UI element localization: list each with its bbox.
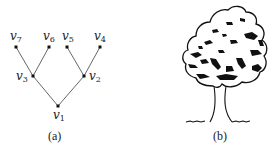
tree-trunk bbox=[210, 86, 232, 122]
edge-v1-v3 bbox=[33, 76, 58, 106]
caption-a: (a) bbox=[48, 129, 61, 143]
label-v3: v3 bbox=[16, 69, 28, 84]
label-v2: v2 bbox=[89, 69, 101, 84]
edge-v1-v2 bbox=[58, 76, 84, 106]
label-v7: v7 bbox=[10, 29, 22, 44]
label-v4: v4 bbox=[94, 29, 106, 44]
panel-a-tree-graph: v7 v6 v5 v4 v3 v2 v1 (a) bbox=[10, 29, 106, 143]
figure: v7 v6 v5 v4 v3 v2 v1 (a) bbox=[0, 0, 278, 153]
edge-v2-v5 bbox=[67, 47, 84, 76]
grass bbox=[186, 121, 250, 122]
label-v6: v6 bbox=[43, 29, 55, 44]
label-v1: v1 bbox=[53, 108, 65, 123]
panel-b-tree-illustration: (b) bbox=[183, 6, 267, 143]
edges bbox=[16, 47, 100, 106]
node-v7 bbox=[15, 46, 18, 49]
edge-v3-v6 bbox=[33, 47, 49, 76]
node-v5 bbox=[66, 46, 69, 49]
caption-b: (b) bbox=[213, 129, 227, 143]
node-v6 bbox=[48, 46, 51, 49]
tree-icon bbox=[183, 6, 267, 122]
node-v4 bbox=[99, 46, 102, 49]
node-v2 bbox=[83, 75, 86, 78]
node-v3 bbox=[32, 75, 35, 78]
label-v5: v5 bbox=[62, 29, 74, 44]
